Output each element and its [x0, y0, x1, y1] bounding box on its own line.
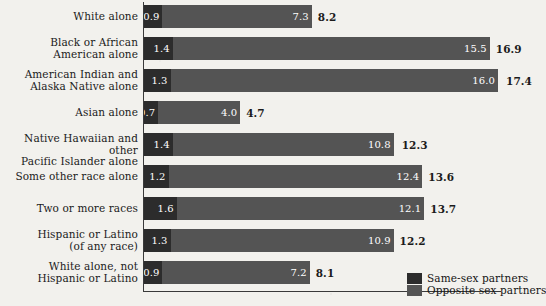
- stacked-bar: 1.410.8: [144, 133, 396, 156]
- stacked-bar: 0.97.2: [144, 261, 310, 284]
- category-label-line: Native Hawaiian and other: [0, 133, 138, 156]
- category-label-line: Some other race alone: [0, 171, 138, 183]
- chart-row: Hispanic or Latino(of any race)1.310.912…: [0, 224, 534, 256]
- bar-segment-same-sex: 1.4: [144, 133, 173, 156]
- bar-total-value: 12.3: [402, 133, 428, 156]
- stacked-bar: 1.612.1: [144, 197, 424, 220]
- bar-segment-opposite-sex: 4.0: [158, 101, 240, 124]
- bar-segment-same-sex: 1.6: [144, 197, 177, 220]
- bar-segment-same-sex: 1.3: [144, 229, 171, 252]
- bar-segment-opposite-sex: 10.9: [171, 229, 394, 252]
- stacked-bar: 1.415.5: [144, 37, 490, 60]
- category-label-line: Black or African: [0, 37, 138, 49]
- bar-segment-value-opposite-sex: 12.1: [399, 203, 425, 214]
- bar-segment-value-opposite-sex: 15.5: [464, 43, 490, 54]
- chart-row: Asian alone0.74.04.7: [0, 96, 534, 128]
- category-label-line: Hispanic or Latino: [0, 229, 138, 241]
- bar-segment-value-same-sex: 0.9: [144, 11, 162, 22]
- chart-row: Black or AfricanAmerican alone1.415.516.…: [0, 32, 534, 64]
- bar-segment-opposite-sex: 12.4: [169, 165, 423, 188]
- category-label-line: White alone: [0, 11, 138, 23]
- category-label-line: American Indian and: [0, 69, 138, 81]
- stacked-bar: 0.74.0: [144, 101, 240, 124]
- category-label-line: White alone, not: [0, 261, 138, 273]
- category-label-line: Asian alone: [0, 107, 138, 119]
- bar-segment-same-sex: 1.2: [144, 165, 169, 188]
- bar-segment-value-opposite-sex: 12.4: [397, 171, 423, 182]
- bar-segment-same-sex: 0.9: [144, 261, 162, 284]
- bar-total-value: 12.2: [400, 229, 426, 252]
- bar-segment-value-opposite-sex: 4.0: [221, 107, 240, 118]
- bar-segment-value-same-sex: 1.4: [153, 43, 172, 54]
- legend-label-opposite-sex: Opposite sex partners: [427, 284, 546, 296]
- legend-swatch-opposite-sex-icon: [407, 285, 422, 296]
- category-label: Hispanic or Latino(of any race): [0, 229, 138, 252]
- chart-row: Some other race alone1.212.413.6: [0, 160, 534, 192]
- bar-segment-value-same-sex: 1.6: [158, 203, 177, 214]
- category-label-line: American alone: [0, 49, 138, 61]
- bar-segment-opposite-sex: 7.2: [162, 261, 309, 284]
- category-label-line: Two or more races: [0, 203, 138, 215]
- bar-total-value: 8.2: [318, 5, 337, 28]
- stacked-bar: 1.310.9: [144, 229, 394, 252]
- stacked-bar: 1.316.0: [144, 69, 500, 92]
- chart-row: Native Hawaiian and otherPacific Islande…: [0, 128, 534, 160]
- stacked-bar: 1.212.4: [144, 165, 422, 188]
- bar-segment-opposite-sex: 10.8: [173, 133, 394, 156]
- category-label: Asian alone: [0, 107, 138, 119]
- bar-segment-value-same-sex: 0.7: [144, 107, 158, 118]
- bar-total-value: 13.6: [428, 165, 454, 188]
- bar-total-value: 4.7: [246, 101, 265, 124]
- category-label: Black or AfricanAmerican alone: [0, 37, 138, 60]
- category-label-line: Alaska Native alone: [0, 81, 138, 93]
- bar-segment-value-opposite-sex: 16.0: [472, 75, 498, 86]
- category-label: White alone, notHispanic or Latino: [0, 261, 138, 284]
- category-label-line: (of any race): [0, 241, 138, 253]
- category-label-line: Hispanic or Latino: [0, 273, 138, 285]
- bar-segment-same-sex: 1.3: [144, 69, 171, 92]
- bar-segment-value-opposite-sex: 7.3: [293, 11, 312, 22]
- bar-segment-value-opposite-sex: 10.8: [368, 139, 394, 150]
- chart-legend: Same-sex partners Opposite sex partners: [407, 272, 546, 296]
- bar-segment-value-same-sex: 1.2: [149, 171, 168, 182]
- category-label: Some other race alone: [0, 171, 138, 183]
- category-label: American Indian andAlaska Native alone: [0, 69, 138, 92]
- chart-row: American Indian andAlaska Native alone1.…: [0, 64, 534, 96]
- bar-segment-opposite-sex: 15.5: [173, 37, 490, 60]
- bar-segment-opposite-sex: 12.1: [177, 197, 425, 220]
- bar-total-value: 16.9: [496, 37, 522, 60]
- bar-segment-value-same-sex: 1.3: [151, 235, 170, 246]
- chart-row: White alone0.97.38.2: [0, 0, 534, 32]
- bar-segment-same-sex: 1.4: [144, 37, 173, 60]
- bar-segment-value-same-sex: 1.4: [153, 139, 172, 150]
- bar-segment-opposite-sex: 16.0: [171, 69, 498, 92]
- category-label: White alone: [0, 11, 138, 23]
- bar-segment-same-sex: 0.7: [144, 101, 158, 124]
- chart-row: Two or more races1.612.113.7: [0, 192, 534, 224]
- bar-segment-value-same-sex: 0.9: [144, 267, 162, 278]
- legend-item-same-sex: Same-sex partners: [407, 272, 546, 284]
- bar-segment-value-opposite-sex: 7.2: [290, 267, 309, 278]
- legend-item-opposite-sex: Opposite sex partners: [407, 284, 546, 296]
- bar-total-value: 13.7: [430, 197, 456, 220]
- bar-total-value: 17.4: [506, 69, 532, 92]
- bar-total-value: 8.1: [316, 261, 335, 284]
- bar-segment-opposite-sex: 7.3: [162, 5, 311, 28]
- bar-segment-same-sex: 0.9: [144, 5, 162, 28]
- bar-segment-value-opposite-sex: 10.9: [368, 235, 394, 246]
- bar-segment-value-same-sex: 1.3: [151, 75, 170, 86]
- stacked-bar: 0.97.3: [144, 5, 312, 28]
- legend-swatch-same-sex-icon: [407, 273, 422, 284]
- category-label: Two or more races: [0, 203, 138, 215]
- legend-label-same-sex: Same-sex partners: [427, 272, 528, 284]
